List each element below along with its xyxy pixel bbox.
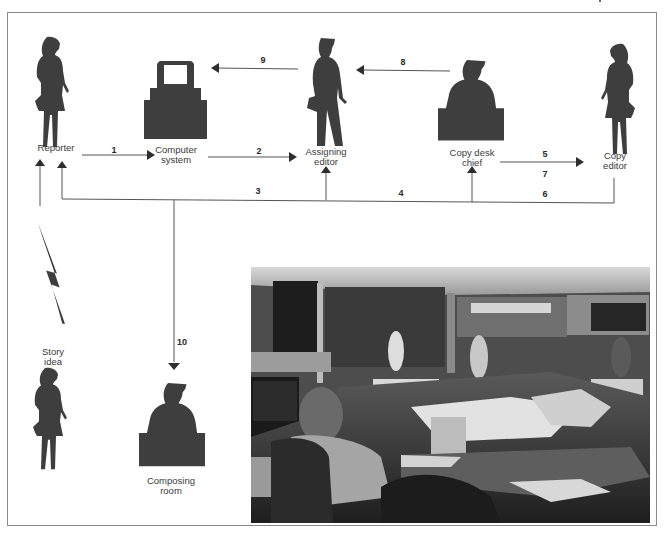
reporter-icon — [35, 37, 69, 147]
assigning-editor-label: Assigning editor — [305, 147, 346, 167]
arrow-8-line — [362, 70, 450, 71]
feedback-line — [62, 167, 614, 203]
assigning-editor-icon — [307, 38, 347, 146]
step-6: 6 — [542, 189, 547, 199]
copy-desk-chief-label: Copy desk chief — [450, 148, 495, 168]
reporter-label: Reporter — [38, 143, 75, 153]
copy-desk-chief-icon — [438, 60, 504, 141]
story-idea-label: Story idea — [42, 347, 64, 367]
step-1: 1 — [111, 145, 116, 155]
composing-room-label: Composing room — [147, 476, 195, 496]
copy-editor-icon — [601, 44, 635, 154]
newsroom-photo-art — [251, 267, 650, 523]
step-9: 9 — [260, 55, 265, 65]
lightning-bolt-icon — [38, 223, 65, 324]
computer-system-label: Computer system — [155, 145, 197, 165]
step-4: 4 — [398, 188, 403, 198]
copy-editor-label: Copy editor — [603, 151, 627, 171]
story-woman-icon — [33, 368, 67, 469]
step-2: 2 — [256, 146, 261, 156]
step-5: 5 — [542, 149, 547, 159]
newsroom-photo — [251, 267, 650, 523]
step-10: 10 — [177, 337, 187, 347]
step-7: 7 — [542, 169, 547, 179]
computer-terminal-icon — [144, 61, 207, 139]
step-8: 8 — [400, 57, 405, 67]
composing-room-icon — [139, 383, 205, 466]
step-3: 3 — [255, 186, 260, 196]
arrow-9-line — [215, 68, 298, 69]
